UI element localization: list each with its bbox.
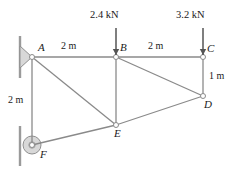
arrow-head-icon (200, 49, 206, 55)
truss-member-FE (32, 125, 116, 145)
dimension-label-dim-AB: 2 m (61, 41, 76, 51)
truss-member-BD (116, 57, 203, 96)
joint-A (30, 55, 35, 60)
joint-label-F: F (40, 149, 47, 160)
joint-C (201, 55, 206, 60)
joint-label-A: A (38, 42, 45, 53)
joint-B (114, 55, 119, 60)
truss-member-DE (116, 96, 203, 125)
dimension-label-dim-AF: 2 m (8, 95, 23, 105)
load-label-C: 3.2 kN (176, 10, 205, 21)
load-B-arrow (113, 28, 119, 55)
joint-F (30, 143, 35, 148)
truss-canvas (0, 0, 237, 171)
joint-label-B: B (120, 42, 127, 53)
arrow-head-icon (113, 49, 119, 55)
joint-label-E: E (114, 128, 121, 139)
load-C-arrow (200, 28, 206, 55)
joint-label-D: D (204, 99, 212, 110)
load-label-B: 2.4 kN (90, 10, 119, 21)
truss-diagram: ABCDEF2 m2 m1 m2 m2.4 kN3.2 kN (0, 0, 237, 171)
truss-member-AE (32, 57, 116, 125)
joint-label-C: C (207, 43, 214, 54)
dimension-label-dim-CD: 1 m (209, 71, 224, 81)
dimension-label-dim-BC: 2 m (148, 41, 163, 51)
